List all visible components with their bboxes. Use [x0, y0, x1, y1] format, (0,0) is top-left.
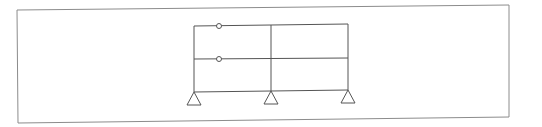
diagram-canvas [0, 0, 542, 127]
diagram-border [17, 5, 509, 123]
frame-diagram [0, 0, 542, 127]
support-middle-pin-support-icon [264, 91, 278, 104]
support-left-pin-support-icon [187, 92, 201, 105]
hinge-roof-icon [217, 24, 222, 29]
hinges [217, 24, 222, 62]
hinge-middle-icon [217, 57, 222, 62]
support-right-pin-support-icon [341, 90, 355, 103]
